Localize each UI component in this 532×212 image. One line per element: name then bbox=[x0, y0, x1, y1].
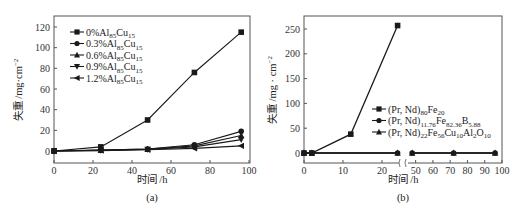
triangle-left-marker-icon bbox=[238, 143, 244, 149]
svg-text:失重 /mg·cm−2: 失重 /mg·cm−2 bbox=[12, 58, 24, 121]
x-tick-label: 60 bbox=[428, 165, 438, 176]
square-marker-icon bbox=[348, 131, 354, 137]
axis-break-gap bbox=[399, 159, 408, 167]
x-tick-label: 20 bbox=[377, 165, 387, 176]
x-tick-label: 80 bbox=[462, 165, 472, 176]
plot-frame bbox=[54, 16, 250, 163]
x-tick-label: 100 bbox=[242, 165, 257, 176]
x-tick-label: 20 bbox=[88, 165, 98, 176]
x-tick-label: 100 bbox=[495, 165, 510, 176]
square-marker-icon bbox=[145, 117, 151, 123]
x-axis-title-b: 时间 /h bbox=[388, 173, 420, 185]
square-marker-icon bbox=[74, 29, 79, 34]
triangle-left-marker-icon bbox=[74, 75, 80, 81]
y-axis-title-a: 失重 /mg·cm−2 bbox=[12, 58, 24, 121]
y-tick-label: 250 bbox=[285, 24, 300, 35]
y-tick-label: 200 bbox=[285, 48, 300, 59]
x-tick-label: 90 bbox=[480, 165, 490, 176]
x-tick-label: 0 bbox=[52, 165, 57, 176]
plot-frame bbox=[304, 16, 502, 163]
y-tick-label: 120 bbox=[35, 22, 50, 33]
x-tick-label: 70 bbox=[445, 165, 455, 176]
y-tick-label: 20 bbox=[40, 125, 50, 136]
x-tick-label: 80 bbox=[205, 165, 215, 176]
x-tick-label: 10 bbox=[338, 165, 348, 176]
y-tick-label: 50 bbox=[290, 123, 300, 134]
y-tick-label: 0 bbox=[45, 146, 50, 157]
square-marker-icon bbox=[376, 106, 381, 111]
circle-marker-icon bbox=[376, 118, 381, 123]
x-axis-title-a: 时间 /h bbox=[137, 173, 169, 185]
chart-panel-a: 0204060801000204060801001200%Al85Cu150.3… bbox=[35, 16, 257, 176]
square-marker-icon bbox=[238, 29, 244, 35]
caption-a: (a) bbox=[146, 192, 158, 204]
circle-marker-icon bbox=[74, 41, 79, 46]
y-tick-label: 80 bbox=[40, 63, 50, 74]
svg-text:失重 /mg · cm−2: 失重 /mg · cm−2 bbox=[266, 56, 278, 124]
legend-label: (Pr, Nd)22Fe56Cu10Al2O10 bbox=[388, 127, 491, 141]
series-line bbox=[54, 32, 241, 151]
y-tick-label: 40 bbox=[40, 104, 50, 115]
caption-b: (b) bbox=[397, 192, 410, 204]
y-tick-label: 60 bbox=[40, 84, 50, 95]
y-tick-label: 0 bbox=[295, 148, 300, 159]
chart-panel-b: 010205060708090100050100150200250(Pr, Nd… bbox=[285, 16, 510, 176]
y-axis-title-b: 失重 /mg · cm−2 bbox=[266, 56, 278, 124]
x-tick-label: 40 bbox=[127, 165, 137, 176]
figure: 0204060801000204060801001200%Al85Cu150.3… bbox=[0, 0, 532, 212]
x-tick-label: 60 bbox=[166, 165, 176, 176]
y-tick-label: 100 bbox=[285, 98, 300, 109]
square-marker-icon bbox=[192, 70, 198, 76]
legend-label: 1.2%Al85Cu15 bbox=[86, 73, 143, 87]
x-tick-label: 0 bbox=[302, 165, 307, 176]
square-marker-icon bbox=[395, 23, 401, 29]
y-tick-label: 100 bbox=[35, 42, 50, 53]
y-tick-label: 150 bbox=[285, 73, 300, 84]
